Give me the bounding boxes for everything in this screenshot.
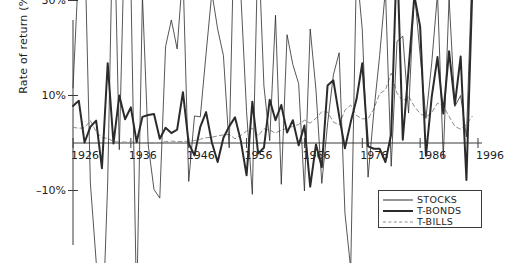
- legend-item-bonds: T-BONDS: [383, 205, 461, 216]
- chart-figure: Rate of return (%) 50%30%10%–10%–30%–50%…: [0, 0, 507, 263]
- legend-label-stocks: STOCKS: [417, 195, 457, 205]
- legend-item-bills: T-BILLS: [383, 216, 453, 227]
- legend-label-bonds: T-BONDS: [417, 206, 461, 216]
- chart-legend: STOCKS T-BONDS T-BILLS: [378, 190, 482, 228]
- legend-swatch-bills-icon: [383, 216, 413, 227]
- legend-swatch-stocks-icon: [383, 194, 413, 205]
- legend-swatch-bonds-icon: [383, 205, 413, 216]
- legend-label-bills: T-BILLS: [417, 217, 453, 227]
- legend-item-stocks: STOCKS: [383, 194, 457, 205]
